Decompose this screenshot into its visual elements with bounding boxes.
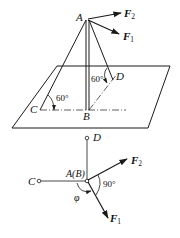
stay-AD: [89, 20, 113, 80]
point-D: [85, 136, 89, 140]
angle-label-phi: φ: [74, 192, 80, 203]
top-force-F2-arrow: [88, 159, 127, 180]
angle-arc-C: [48, 95, 54, 110]
top-label-D: D: [92, 131, 101, 143]
label-A: A: [75, 11, 83, 23]
perspective-view: A B C D F2 F1 60° 60°: [12, 7, 170, 128]
angle-label-90: 90°: [103, 179, 116, 189]
label-B: B: [83, 110, 90, 122]
label-F1: F1: [122, 30, 134, 44]
label-C: C: [30, 103, 38, 115]
statics-diagram: A B C D F2 F1 60° 60° D C A(B) F2 F1: [0, 0, 180, 238]
top-label-AB: A(B): [65, 168, 86, 180]
top-label-F2: F2: [130, 154, 142, 168]
top-label-C: C: [28, 175, 36, 187]
point-C: [37, 179, 41, 183]
angle-label-D: 60°: [91, 74, 104, 84]
top-label-F1: F1: [109, 212, 121, 226]
force-F1-arrow: [88, 20, 119, 34]
angle-label-C: 60°: [56, 93, 69, 103]
label-D: D: [115, 70, 124, 82]
angle-arc-90: [96, 175, 100, 195]
top-view: D C A(B) F2 F1 90° φ: [28, 131, 142, 226]
angle-arc-D: [105, 68, 108, 83]
label-F2: F2: [123, 7, 135, 21]
force-F2-arrow: [88, 13, 121, 19]
